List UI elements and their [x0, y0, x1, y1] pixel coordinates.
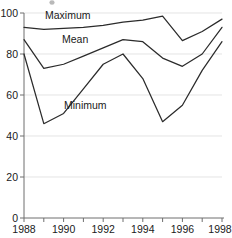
series-labels: Maximum Mean Minimum [45, 9, 107, 111]
y-axis-label-20: 20 [6, 171, 18, 183]
series-label-minimum: Minimum [64, 99, 107, 111]
y-axis-label-40: 40 [6, 130, 18, 142]
y-axis-label-60: 60 [6, 89, 18, 101]
x-axis-label-1990: 1990 [52, 223, 76, 235]
series-group [24, 16, 222, 124]
series-label-maximum: Maximum [45, 9, 91, 21]
y-axis-label-80: 80 [6, 48, 18, 60]
cropped-glyph-artifact [49, 0, 54, 4]
chart-canvas: 100 80 60 40 20 0 1988 1990 1992 1994 19… [0, 0, 232, 238]
x-axis-label-1992: 1992 [92, 223, 116, 235]
y-axis-labels: 100 80 60 40 20 0 [0, 7, 18, 224]
x-axis-label-1996: 1996 [171, 223, 195, 235]
x-axis-labels: 1988 1990 1992 1994 1996 1998 [12, 223, 232, 235]
axes [20, 13, 224, 222]
y-axis-label-0: 0 [12, 212, 18, 224]
x-axis-label-1988: 1988 [12, 223, 36, 235]
series-label-mean: Mean [62, 33, 88, 45]
series-line-mean [24, 27, 222, 68]
line-chart: 100 80 60 40 20 0 1988 1990 1992 1994 19… [0, 0, 232, 238]
y-axis-label-100: 100 [0, 7, 18, 19]
x-axis-label-1998: 1998 [208, 223, 232, 235]
x-axis-label-1994: 1994 [131, 223, 155, 235]
gridlines [24, 13, 222, 177]
